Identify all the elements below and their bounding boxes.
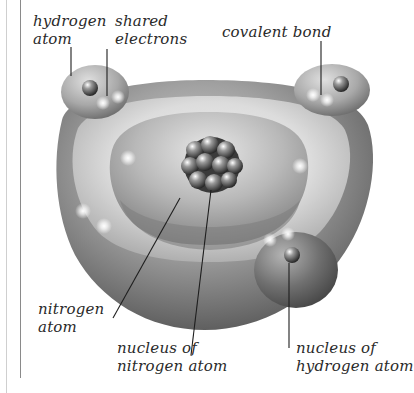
- hydrogen-atom-top-right: [294, 64, 370, 116]
- label-nucleus-hydrogen: nucleus of hydrogen atom: [296, 339, 414, 375]
- hydrogen-nucleus-sphere: [284, 247, 300, 263]
- label-hydrogen-atom: hydrogen atom: [33, 12, 107, 48]
- label-nitrogen-atom: nitrogen atom: [38, 300, 104, 336]
- hydrogen-nucleus-sphere: [333, 76, 349, 92]
- hydrogen-nucleus-sphere: [82, 80, 98, 96]
- label-covalent-bond: covalent bond: [222, 23, 331, 41]
- label-shared-electrons: shared electrons: [115, 12, 187, 48]
- label-nucleus-nitrogen: nucleus of nitrogen atom: [117, 339, 227, 375]
